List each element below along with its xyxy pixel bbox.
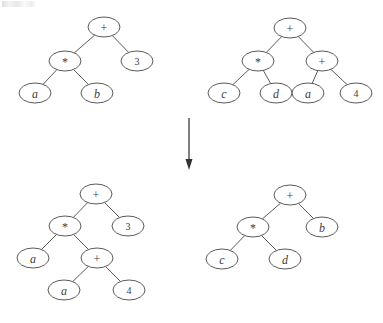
arrow-head [186,159,193,170]
figure-canvas: +*3ab+*+cda4+*3a+a4+*bcd [0,0,383,323]
transformation-arrow [0,0,383,323]
